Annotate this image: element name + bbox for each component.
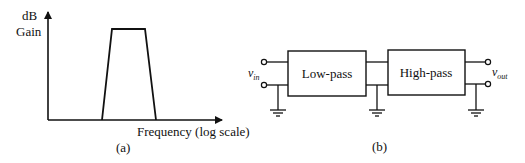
y-axis-label-gain: Gain [16,24,42,39]
figure: dB Gain Frequency (log scale) (a) vin Lo… [0,0,525,163]
input-terminal-top [261,59,266,64]
caption-a: (a) [116,140,130,155]
output-terminal-bottom [485,81,490,86]
ground-icon [270,85,286,116]
y-axis-label-db: dB [22,8,38,23]
ground-icon [369,85,385,116]
panel-a-gain-plot: dB Gain Frequency (log scale) (a) [16,8,250,155]
panel-b-block-diagram: vin Low-pass High-pass vout (b) [248,50,508,154]
output-voltage-label: vout [492,65,508,81]
high-pass-label: High-pass [400,65,453,80]
ground-icon [468,84,484,116]
caption-b: (b) [372,139,387,154]
bandpass-response-curve [102,29,156,120]
x-axis-label: Frequency (log scale) [137,124,250,139]
input-terminal-bottom [261,82,266,87]
input-voltage-label: vin [248,66,260,82]
output-terminal-top [485,59,490,64]
low-pass-label: Low-pass [302,66,353,81]
